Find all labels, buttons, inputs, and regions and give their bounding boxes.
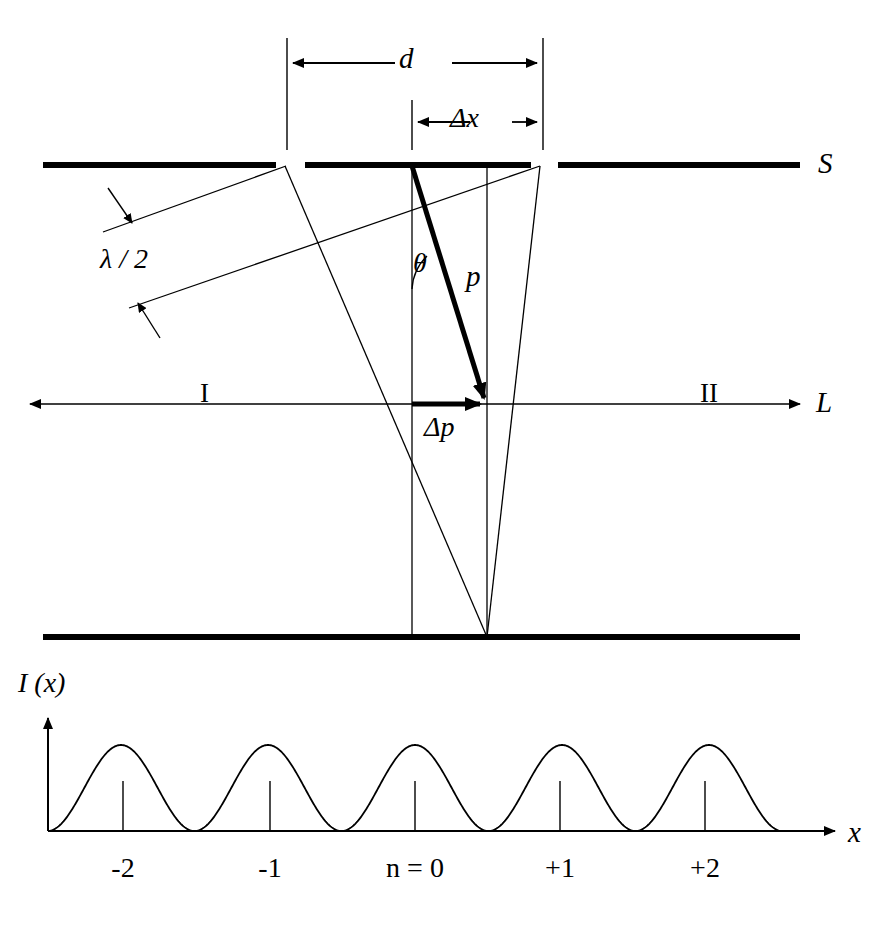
- label-region-two: II: [700, 380, 718, 407]
- intensity-plot-axes: [48, 718, 835, 831]
- label-slit-separation: d: [399, 44, 414, 73]
- intensity-curve: [50, 745, 779, 831]
- label-half-wavelength: λ / 2: [100, 245, 148, 273]
- label-region-one: I: [200, 380, 209, 407]
- label-fringe-spacing: Δx: [450, 104, 479, 132]
- tick-label: +1: [545, 852, 575, 884]
- figure-canvas: [0, 0, 886, 932]
- label-momentum-change: Δp: [424, 413, 454, 441]
- tick-label: +2: [690, 852, 720, 884]
- label-screen-top: S: [818, 149, 833, 178]
- label-intensity-axis: I (x): [18, 669, 65, 697]
- wavefront-upper: [103, 166, 286, 232]
- label-angle-theta: θ: [413, 249, 427, 277]
- dimension-extension-lines: [287, 38, 543, 150]
- tick-label: -2: [111, 852, 134, 884]
- interference-figure: d Δx S λ / 2 θ p Δp I II L I (x) x -2-1n…: [0, 0, 886, 932]
- label-position-axis: x: [848, 818, 861, 847]
- tick-label: n = 0: [386, 852, 444, 884]
- label-axis-L: L: [816, 388, 832, 417]
- intensity-ticks: [123, 781, 705, 831]
- tick-label: -1: [258, 852, 281, 884]
- label-momentum: p: [466, 262, 481, 291]
- beam-from-slit-2: [487, 166, 540, 637]
